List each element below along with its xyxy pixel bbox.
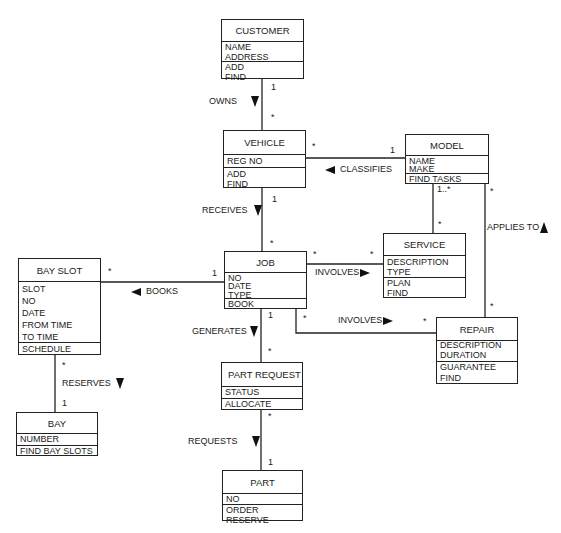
attribute: STATUS (225, 387, 299, 398)
multiplicity: 1 (390, 145, 395, 155)
multiplicity: * (313, 249, 317, 259)
multiplicity: * (438, 219, 442, 229)
multiplicity: * (271, 112, 275, 122)
class-name: BAY SLOT (19, 259, 100, 282)
class-repair[interactable]: REPAIR DESCRIPTION DURATION GUARANTEE FI… (436, 317, 518, 384)
class-bay[interactable]: BAY NUMBER FIND BAY SLOTS (16, 412, 98, 456)
operations: ORDER RESERVE (223, 505, 302, 525)
arrow-right-icon (360, 269, 370, 277)
arrow-left-icon (325, 166, 335, 174)
assoc-label-owns: OWNS (209, 96, 259, 107)
multiplicity: 1 (272, 194, 277, 204)
operation: PLAN (387, 278, 462, 288)
attributes: DESCRIPTION TYPE (384, 256, 465, 278)
multiplicity: * (423, 316, 427, 326)
class-name: PART REQUEST (222, 363, 302, 387)
operation: ALLOCATE (225, 399, 299, 410)
assoc-label-requests: REQUESTS (188, 436, 260, 447)
class-part-request[interactable]: PART REQUEST STATUS ALLOCATE (221, 362, 303, 410)
class-name: MODEL (406, 135, 488, 156)
attribute: MAKE (409, 165, 485, 173)
assoc-label-applies-to: APPLIES TO (487, 222, 548, 233)
multiplicity: * (312, 141, 316, 151)
multiplicity: * (268, 346, 272, 356)
assoc-label-reserves: RESERVES (62, 378, 124, 389)
class-vehicle[interactable]: VEHICLE REG NO ADD FIND (223, 130, 306, 188)
attribute: NO (22, 295, 97, 307)
class-name: CUSTOMER (222, 20, 303, 42)
multiplicity: * (268, 411, 272, 421)
arrow-down-icon (116, 378, 124, 389)
multiplicity: 1 (271, 82, 276, 92)
arrow-up-icon (540, 222, 548, 233)
attribute: REG NO (227, 155, 302, 167)
class-job[interactable]: JOB NO DATE TYPE BOOK (224, 251, 307, 309)
class-name: REPAIR (437, 318, 517, 341)
arrow-down-icon (250, 326, 258, 337)
class-model[interactable]: MODEL NAME MAKE FIND TASKS (405, 134, 489, 184)
attribute: SLOT (22, 283, 97, 295)
class-name: PART (223, 471, 302, 494)
operation: GUARANTEE (440, 362, 514, 373)
attribute: NUMBER (20, 434, 94, 445)
class-service[interactable]: SERVICE DESCRIPTION TYPE PLAN FIND (383, 233, 466, 298)
attribute: NO (226, 494, 299, 504)
operations: ADD FIND (224, 168, 305, 189)
uml-class-diagram: CUSTOMER NAME ADDRESS ADD FIND VEHICLE R… (0, 0, 561, 533)
attributes: NAME MAKE (406, 156, 488, 174)
operation: FIND TASKS (409, 174, 485, 184)
multiplicity: * (490, 186, 494, 196)
arrow-down-icon (252, 436, 260, 447)
attributes: NAME ADDRESS (222, 42, 303, 62)
operation: SCHEDULE (22, 343, 97, 355)
assoc-label-involves-service: INVOLVES (315, 267, 370, 277)
multiplicity: 1 (212, 268, 217, 278)
attributes: DESCRIPTION DURATION (437, 341, 517, 362)
class-name: VEHICLE (224, 131, 305, 155)
attribute: ADDRESS (225, 52, 300, 62)
operation: ORDER (226, 505, 299, 515)
class-customer[interactable]: CUSTOMER NAME ADDRESS ADD FIND (221, 19, 304, 79)
assoc-label-involves-repair: INVOLVES (338, 315, 393, 325)
operations: FIND BAY SLOTS (17, 446, 97, 457)
operations: PLAN FIND (384, 278, 465, 298)
attribute: FROM TIME (22, 319, 97, 331)
multiplicity: 1 (268, 457, 273, 467)
class-name: BAY (17, 413, 97, 434)
operations: FIND TASKS (406, 174, 488, 184)
attributes: STATUS (222, 387, 302, 399)
operation: RESERVE (226, 515, 299, 525)
operation: BOOK (228, 299, 303, 309)
attribute: TYPE (387, 267, 462, 277)
operations: BOOK (225, 299, 306, 309)
class-name: JOB (225, 252, 306, 273)
class-part[interactable]: PART NO ORDER RESERVE (222, 470, 303, 521)
assoc-label-receives: RECEIVES (202, 205, 262, 216)
assoc-label-books: BOOKS (131, 286, 178, 296)
attributes: REG NO (224, 155, 305, 168)
operations: SCHEDULE (19, 343, 100, 355)
multiplicity: * (108, 266, 112, 276)
operation: FIND (440, 373, 514, 384)
multiplicity: 1 (62, 398, 67, 408)
class-bay-slot[interactable]: BAY SLOT SLOT NO DATE FROM TIME TO TIME … (18, 258, 101, 355)
operation: FIND (225, 72, 300, 82)
multiplicity: * (370, 249, 374, 259)
operation: FIND (227, 179, 302, 189)
attribute: TYPE (228, 291, 303, 299)
assoc-label-generates: GENERATES (192, 326, 258, 337)
attribute: DURATION (440, 351, 514, 361)
attribute: NAME (225, 42, 300, 52)
multiplicity: * (490, 301, 494, 311)
multiplicity: 1 (268, 310, 273, 320)
attributes: NO (223, 494, 302, 505)
arrow-right-icon (383, 317, 393, 325)
operations: ADD FIND (222, 62, 303, 82)
operation: ADD (225, 62, 300, 72)
attribute: TO TIME (22, 331, 97, 343)
operation: FIND (387, 288, 462, 298)
assoc-label-classifies: CLASSIFIES (325, 164, 392, 174)
arrow-left-icon (131, 288, 141, 296)
operation: FIND BAY SLOTS (20, 446, 94, 457)
attributes: NO DATE TYPE (225, 273, 306, 299)
